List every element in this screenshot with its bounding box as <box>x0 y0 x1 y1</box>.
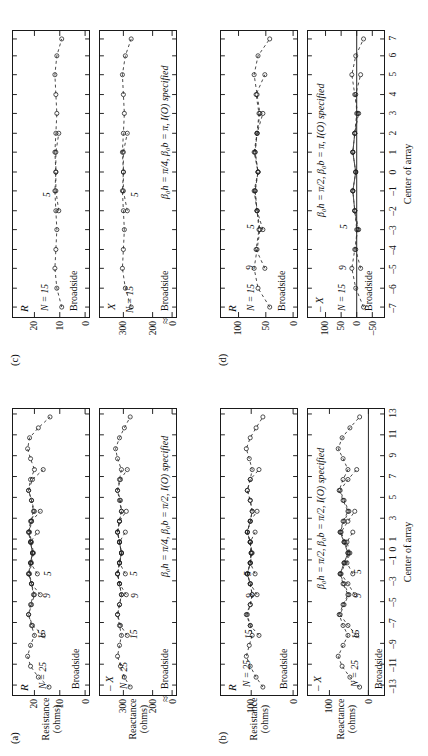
panel-b-xtick-6: –1 <box>389 555 399 565</box>
panel-c-r-curve-15: N = 15 <box>41 284 51 311</box>
panel-b-r-ytick-0: 0 <box>290 699 300 704</box>
panel-a-stack: 0 10 20 R N = 25 15 9 5 Broadside <box>12 408 177 696</box>
panel-b-xtick-5: –3 <box>389 576 399 586</box>
panel-c-x-ytick-200: 200 <box>149 321 159 335</box>
panel-d-condition: β₀h = π/2, β₀b = π, I(O) specified <box>316 84 326 217</box>
figure-page: (a) <box>0 0 428 756</box>
panel-d-xtick-14: 7 <box>389 36 399 41</box>
panel-c-subplot-x: 0 200 300 ≈ X N = 15 5 Broadside β₀h = π… <box>99 30 177 318</box>
panel-b-ylabel-reactance-units: (ohms) <box>346 705 357 733</box>
panel-c-r-symbol: R <box>19 305 30 312</box>
panel-b-ylabel-resistance-text: Resistance <box>248 698 259 741</box>
panel-d-x-curve-15: N = 15 <box>338 284 348 311</box>
panel-d-xlabel: Center of array <box>403 30 414 318</box>
panel-d: (d) <box>218 12 428 364</box>
panel-b-r-symbol: R <box>227 684 238 691</box>
panel-d-x-ytick-0: 0 <box>353 321 363 326</box>
panel-c-subplot-r: 0 10 20 R N = 15 5 Broadside <box>12 30 90 318</box>
rotated-figure-wrapper: (a) <box>0 0 428 756</box>
panel-b-stack: 0 100 R N = 25 15 9 5 Broadside <box>220 408 385 696</box>
panel-a-r-curve-9: 9 <box>43 593 53 598</box>
panel-c-r-markers <box>53 37 64 309</box>
panel-d-r-curve-9: 9 <box>246 265 256 270</box>
panel-d-x-ytick-50: 50 <box>337 321 347 331</box>
panel-b-r-markers <box>244 415 265 689</box>
panel-b: (b) <box>218 390 428 742</box>
panel-b-x-curve-15: 15 <box>352 630 362 640</box>
panel-a-x-broadside: Broadside <box>160 648 170 689</box>
panel-d-xtick-11: 4 <box>389 92 399 97</box>
panel-c-x-curve-5: 5 <box>131 192 141 197</box>
panel-c-x-broadside: Broadside <box>160 270 170 311</box>
panel-c-r-ytick-20: 20 <box>30 321 40 331</box>
panel-a-x-axis-break: ≈ <box>160 696 171 702</box>
panel-c-r-broadside: Broadside <box>69 270 79 311</box>
panel-a-ylabel-reactance-units: (ohms) <box>138 705 149 733</box>
panel-b-xtick-1: –11 <box>389 658 399 672</box>
panel-a-x-markers <box>114 415 133 689</box>
panel-b-xtick-14: 13 <box>389 408 399 418</box>
panel-d-subplot-r: 0 50 100 R N = 15 9 5 Broadside <box>220 30 298 318</box>
panel-d-subplot-x: –50 0 50 100 – X N = 15 9 5 Broadside β₀… <box>307 30 385 318</box>
panel-b-xtick-0: –13 <box>389 679 399 693</box>
panel-b-xlabel: Center of array <box>403 408 414 696</box>
panel-d-xtick-7: 0 <box>389 170 399 175</box>
panel-d-xtick-0: –7 <box>389 303 399 313</box>
panel-b-x-ytick-0: 0 <box>365 699 375 704</box>
panel-d-x-curve-9: 9 <box>339 265 349 270</box>
panel-d-r-ytick-0: 0 <box>290 321 300 326</box>
panel-c-tag: (c) <box>9 354 20 366</box>
panel-d-xtick-6: –1 <box>389 186 399 196</box>
panel-b-xtick-4: –5 <box>389 597 399 607</box>
panel-b-condition: β₀h = π/2, β₀b = π/2, I(O) specified <box>316 448 326 589</box>
panel-d-x-ytick-m50: –50 <box>369 321 379 335</box>
panel-a-x-ytick-200: 200 <box>149 699 159 713</box>
panel-a-x-curve-15: 15 <box>130 630 140 640</box>
panel-a-ylabel-reactance-text: Reactance <box>127 698 138 739</box>
panel-b-r-curve-9: 9 <box>246 593 256 598</box>
panel-d-xtick-10: 3 <box>389 111 399 116</box>
panel-c-x-ytick-300: 300 <box>119 321 129 335</box>
panel-d-xtick-12: 5 <box>389 72 399 77</box>
panel-a-r-broadside: Broadside <box>71 648 81 689</box>
panel-a-condition: β₀h = π/4, β₀b = π/2, I(O) specified <box>160 436 170 577</box>
panel-a-r-curve-15: 15 <box>38 630 48 640</box>
panel-d-xtick-3: –4 <box>389 245 399 255</box>
panel-b-x-symbol: – X <box>312 676 323 691</box>
panel-b-r-curve-5: 5 <box>244 571 254 576</box>
panel-b-r-broadside: Broadside <box>279 648 289 689</box>
panel-b-xaxis: –13 –11 –9 –7 –5 –3 –1 0 1 3 5 7 9 11 13 <box>385 408 397 696</box>
panel-b-subplot-r: 0 100 R N = 25 15 9 5 Broadside <box>220 408 298 696</box>
panel-d-xtick-1: –6 <box>389 284 399 294</box>
panel-b-xtick-7: 0 <box>389 547 399 552</box>
panel-a-ylabel-resistance-units: (ohms) <box>51 705 62 733</box>
panel-d-stack: 0 50 100 R N = 15 9 5 Broadside <box>220 30 385 318</box>
panel-b-ylabel-reactance: Reactance (ohms) <box>335 677 357 756</box>
panel-a-r-symbol: R <box>19 684 30 691</box>
panel-b-ylabel-resistance: Resistance (ohms) <box>248 677 270 756</box>
panel-b-subplot-x: 0 100 – X N = 25 15 9 5 Broadside β₀h = … <box>307 408 385 696</box>
panel-b-xtick-13: 11 <box>389 429 399 438</box>
panel-a-x-curve-9: 9 <box>131 593 141 598</box>
panel-c: (c) <box>10 12 210 364</box>
panel-d-xtick-13: 6 <box>389 53 399 58</box>
panel-d-tag: (d) <box>217 354 228 366</box>
panel-b-x-curve-9: 9 <box>354 593 364 598</box>
panel-d-x-symbol: – X <box>314 297 325 312</box>
panel-c-stack: 0 10 20 R N = 15 5 Broadside <box>12 30 177 318</box>
panel-c-x-symbol: X <box>106 303 117 310</box>
panel-c-x-curve-15: N = 15 <box>126 286 136 313</box>
panel-d-xtick-4: –3 <box>389 225 399 235</box>
panel-d-r-symbol: R <box>227 305 238 312</box>
panel-b-r-curve-15: 15 <box>245 630 255 640</box>
panel-a-tag: (a) <box>9 732 20 744</box>
panel-b-x-curve-5: 5 <box>354 569 364 574</box>
panel-a-x-symbol: – X <box>104 676 115 691</box>
panel-d-ylabel-resistance-text: Resistance <box>254 320 265 363</box>
panel-c-x-axis-break: ≈ <box>160 318 171 324</box>
panel-c-x-markers <box>120 37 133 309</box>
panel-c-r-ytick-0: 0 <box>82 321 92 326</box>
panel-b-x-ytick-100: 100 <box>325 699 335 713</box>
panel-b-xtick-3: –7 <box>389 618 399 628</box>
panel-d-r-broadside: Broadside <box>277 270 287 311</box>
